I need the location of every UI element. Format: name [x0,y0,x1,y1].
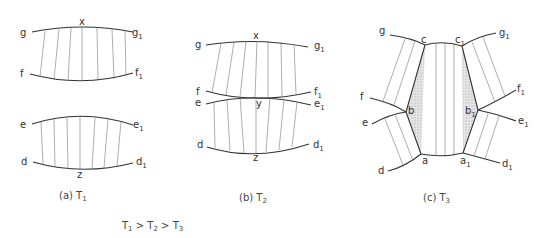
panel-b: g g1 x f f1 e e1 y d d1 z (b) T2 [195,30,325,205]
boundary-e-b [372,112,406,124]
fibres-centre [436,42,454,157]
label-x: x [253,30,259,41]
label-b: b [408,105,414,116]
panel-c: g g1 c c1 f f1 b b1 e e1 a a1 d d1 (c) T… [360,25,529,205]
boundary-f-f1 [30,73,133,81]
boundary-b1-f1 [478,90,516,110]
panel-a: g g1 x f f1 e e1 d d1 z (a) T1 [20,16,147,203]
label-e1: e1 [133,119,144,133]
boundary-g-c-c1-g1 [390,33,496,46]
diagram-canvas: g g1 x f f1 e e1 d d1 z (a) T1 [0,0,539,238]
caption-c: (c) T3 [423,192,450,205]
label-f: f [360,91,364,102]
label-f: f [20,68,24,79]
boundary-d-d1 [33,162,133,169]
label-a1: a1 [460,155,471,169]
label-g1: g1 [499,27,510,41]
boundary-e-e1 [32,116,133,125]
label-d: d [197,139,203,150]
label-z: z [253,152,258,163]
label-g: g [379,25,385,36]
label-e1: e1 [314,98,325,112]
label-e1: e1 [518,115,529,129]
caption-a: (a) T1 [59,190,87,203]
label-c: c [421,34,427,45]
label-d: d [378,165,384,176]
temperature-relation: T1 > T2 > T3 [121,220,183,233]
label-d1: d1 [136,156,147,170]
label-g: g [195,39,201,50]
label-c1: c1 [455,34,465,48]
boundary-d-a [388,154,421,171]
label-f1: f1 [517,83,525,97]
fibres-upper [212,41,296,98]
boundary-b1-e1 [478,110,516,121]
label-x: x [79,16,85,27]
label-f: f [196,86,200,97]
fibres-upper [40,27,126,81]
label-f1: f1 [135,67,143,81]
label-d1: d1 [313,139,324,153]
label-a: a [422,155,428,166]
label-d1: d1 [502,158,513,172]
fibres-right [472,37,505,159]
label-d: d [21,156,27,167]
fibres-lower [41,117,121,169]
label-y: y [256,98,262,109]
label-g1: g1 [314,40,325,54]
label-z: z [77,169,82,180]
label-e: e [20,119,26,130]
caption-b: (b) T2 [239,192,267,205]
label-e: e [195,97,201,108]
label-g1: g1 [132,27,143,41]
boundary-f-b [370,98,406,112]
label-e: e [362,117,368,128]
label-g: g [20,27,26,38]
boundary-g-g1 [32,27,133,32]
